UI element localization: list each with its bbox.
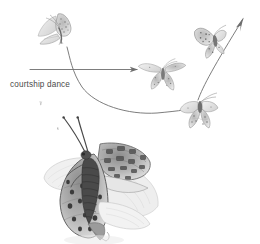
body bbox=[161, 68, 165, 80]
courtship-dance-label: courtship dance bbox=[10, 80, 70, 89]
illustration-canvas: courtship dance bbox=[0, 0, 260, 244]
body bbox=[198, 101, 202, 113]
antenna-club-right bbox=[77, 116, 79, 118]
eye bbox=[82, 152, 85, 155]
butterfly-courtship-diagram: courtship dance bbox=[0, 0, 260, 244]
antenna-club-left bbox=[62, 116, 64, 118]
